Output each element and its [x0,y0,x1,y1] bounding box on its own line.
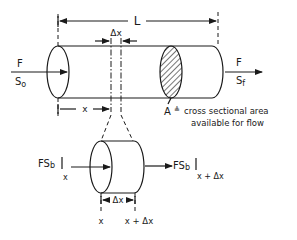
zoom-projection [101,115,133,141]
area-desc-line1: cross sectional area [184,106,269,116]
element-dx-label: Δx [113,195,124,205]
flux-in-label: FSb [38,158,55,170]
projection-right [121,115,133,141]
element-outlet-face [134,141,144,193]
flux-in-eval: x [63,173,68,182]
flux-out-label: FSb [173,160,190,172]
area-symbol: A [164,106,171,117]
area-leader [168,98,171,104]
cylinder-outlet-face [212,46,223,98]
area-desc-line2: available for flow [191,118,264,128]
inlet-flow-label: F [17,58,23,69]
area-annotation: A ≜ cross sectional area available for f… [164,98,269,128]
flux-in: FSb x [38,157,110,182]
x-dimension: x [58,98,109,116]
element-x-label: x [98,216,103,226]
slice-markers: Δx [95,28,137,112]
flux-out-eval: x + Δx [197,172,224,181]
length-dimension: L [58,12,218,46]
area-def-symbol: ≜ [174,106,180,114]
dx-label-top: Δx [110,28,122,38]
main-cylinder [47,46,223,98]
length-label: L [134,14,141,28]
element-x-plus-dx-label: x + Δx [125,216,153,226]
inlet-stream: F So [11,58,67,89]
outlet-conc-label: Sf [236,75,245,88]
cross-section-hatched [160,46,182,98]
flux-out: FSb x + Δx [145,158,224,181]
outlet-stream: F Sf [225,57,262,88]
element-dimension: Δx x x + Δx [98,193,153,226]
cylinder-diagram: L Δx x F So F Sf A ≜ cross sectional are… [0,0,297,240]
inlet-conc-label: So [15,76,26,89]
projection-left [101,115,111,141]
x-label-top: x [82,104,88,114]
outlet-flow-label: F [236,57,242,68]
